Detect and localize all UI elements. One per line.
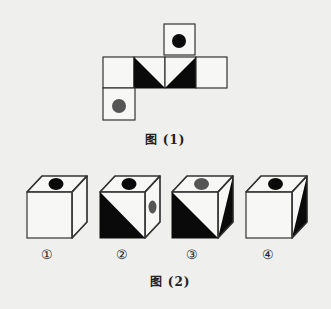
net-square-row-3	[165, 57, 196, 88]
cube-net-figure-1	[103, 24, 227, 120]
net-square-row-1	[103, 57, 134, 88]
square-face	[103, 57, 134, 88]
cube-option-1	[27, 176, 87, 238]
option-label-1: ①	[41, 247, 53, 262]
black-top-dot-icon	[268, 178, 283, 190]
option-label-4: ④	[262, 247, 274, 262]
net-square-row-4	[196, 57, 227, 88]
option-label-3: ③	[186, 247, 198, 262]
cube-front-face	[27, 192, 72, 238]
net-square-top	[164, 24, 195, 55]
option-label-2: ②	[116, 247, 128, 262]
gray-side-dot-icon	[149, 201, 157, 214]
cube-front-face	[246, 192, 292, 238]
black-dot-icon	[172, 34, 186, 48]
cube-option-2	[100, 176, 160, 238]
net-square-bottom	[103, 88, 135, 120]
cube-option-4	[246, 176, 307, 238]
gray-dot-icon	[112, 99, 126, 113]
square-face	[196, 57, 227, 88]
black-top-dot-icon	[122, 178, 137, 190]
cube-puzzle-diagram	[0, 0, 331, 309]
black-top-dot-icon	[49, 178, 64, 190]
gray-top-dot-icon	[194, 178, 209, 190]
cube-option-3	[172, 176, 233, 238]
figure-2-caption: 图 (2)	[150, 272, 191, 289]
cube-options-figure-2	[27, 176, 307, 238]
net-square-row-2	[134, 57, 165, 88]
figure-1-caption: 图 (1)	[145, 130, 186, 147]
